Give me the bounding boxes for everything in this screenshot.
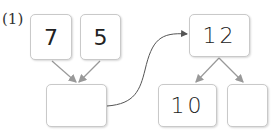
box-ten: 10 — [158, 84, 217, 127]
box-sum-blank[interactable] — [46, 84, 107, 127]
box-split-blank[interactable] — [227, 84, 268, 127]
box-twelve: 12 — [189, 14, 250, 57]
box-five: 5 — [80, 14, 121, 60]
arrow-12-to-blank — [219, 58, 243, 82]
arrow-12-to-10 — [196, 58, 219, 82]
box-seven: 7 — [30, 14, 72, 60]
arrow-5-to-sum — [79, 61, 100, 82]
arrow-7-to-sum — [52, 61, 76, 82]
